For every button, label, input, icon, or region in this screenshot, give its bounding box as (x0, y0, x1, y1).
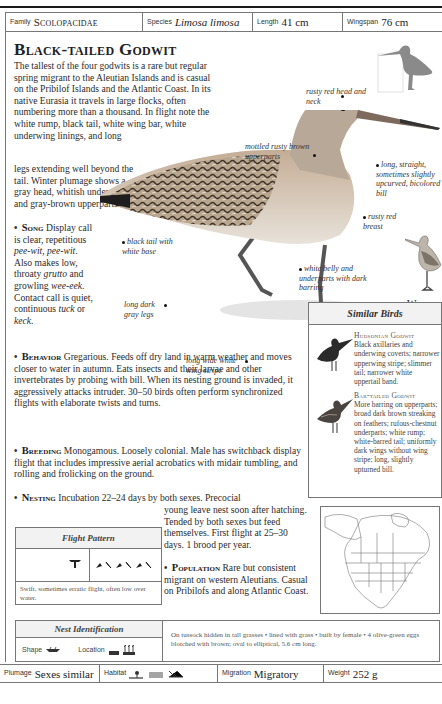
plumage-value: Sexes similar (35, 668, 94, 680)
family-value: Scolopacidae (34, 16, 98, 28)
nest-location-icon (109, 644, 137, 656)
similar-bird-description: More barring on upperparts; broad dark b… (354, 400, 440, 474)
callout-belly-text: white belly and underparts with dark bar… (299, 264, 367, 292)
callout-upperparts: mottled rusty brown upperparts (245, 142, 315, 161)
habitat-label: Habitat (104, 669, 126, 676)
flight-pattern-heading: Flight Pattern (16, 528, 161, 549)
family-label: Family (10, 18, 31, 25)
nest-identification-left: Nest Identification Shape Location (16, 621, 163, 661)
similar-bird-name: Hudsonian Godwit (354, 331, 440, 340)
plumage-label: Plumage (4, 669, 32, 676)
song-call: grutto (44, 268, 67, 279)
breeding-section: • Breeding Monogamous. Loosely colonial.… (14, 445, 304, 480)
weight-value: 252 g (353, 668, 378, 680)
nesting-text: Incubation 22–24 days by both sexes. Pre… (58, 492, 241, 503)
flight-pattern-icons (16, 549, 161, 582)
species-cell: Species Limosa limosa (143, 13, 253, 31)
callout-bill: long, straight, sometimes slightly upcur… (376, 160, 442, 198)
length-cell: Length 41 cm (253, 13, 343, 31)
footer-info-bar: Plumage Sexes similar Habitat Migration … (0, 664, 442, 683)
bullet-icon: • (14, 222, 17, 233)
species-label: Species (147, 18, 172, 25)
callout-wing: long wide white wing stripe (186, 356, 244, 375)
population-section: • Population Rare but consistent migrant… (164, 562, 309, 597)
species-title: Black-tailed Godwit (14, 40, 177, 60)
nest-shape-label: Shape (22, 646, 42, 653)
callout-dot-icon (299, 268, 302, 271)
nest-identification-heading: Nest Identification (16, 621, 162, 638)
callout-legs-text: long dark gray legs (124, 300, 155, 319)
weight-cell: Weight 252 g (324, 665, 442, 682)
breeding-heading: Breeding (22, 445, 62, 456)
similar-bird-description: Black axillaries and underwing coverts; … (354, 340, 440, 386)
callout-dot-icon (245, 360, 248, 363)
nest-location-label: Location (78, 646, 104, 653)
flying-bird-front-icon (69, 559, 81, 569)
flight-pattern-box: Flight Pattern Swift, sometimes erratic … (15, 527, 162, 605)
shore-habitat-icon (129, 671, 143, 678)
wingspan-cell: Wingspan 76 cm (343, 13, 442, 31)
wingspan-value: 76 cm (381, 16, 408, 28)
north-america-map-icon (321, 507, 439, 613)
song-call: wee-eek (51, 280, 82, 291)
behavior-heading: Behavior (22, 351, 62, 362)
similar-birds-heading: Similar Birds (309, 303, 441, 325)
callout-dot-icon (122, 241, 125, 244)
bullet-icon: • (14, 492, 17, 503)
bullet-icon: • (14, 351, 17, 362)
callout-breast-text: rusty red breast (363, 212, 396, 231)
nest-description: On tussock hidden in tall grasses • line… (163, 621, 439, 661)
length-label: Length (257, 18, 278, 25)
range-map (320, 506, 440, 614)
song-call: keck (14, 315, 31, 326)
flight-path-icon (96, 560, 156, 570)
species-value: Limosa limosa (175, 16, 240, 28)
callout-legs: long dark gray legs (124, 300, 166, 319)
water-habitat-icon (149, 673, 163, 677)
callout-wing-text: long wide white wing stripe (186, 356, 237, 375)
song-call: tuck (59, 303, 75, 314)
callout-head-text: rusty red head and neck (306, 87, 366, 106)
flight-pattern-cell (90, 549, 161, 581)
callout-bill-text: long, straight, sometimes slightly upcur… (376, 160, 440, 198)
bullet-icon: • (14, 445, 17, 456)
callout-dot-icon (164, 304, 167, 307)
song-text: or (75, 303, 85, 314)
family-cell: Family Scolopacidae (6, 13, 143, 31)
migration-label: Migration (222, 669, 251, 676)
header-info-bar: Family Scolopacidae Species Limosa limos… (5, 12, 442, 32)
size-silhouette-icon (375, 38, 440, 98)
nesting-heading: Nesting (22, 492, 56, 503)
callout-dot-icon (341, 95, 344, 98)
flight-silhouette-cell (16, 549, 90, 581)
callout-tail: black tail with white base (122, 237, 182, 256)
song-section: • Song Display call is clear, repetitiou… (14, 222, 96, 326)
bar-tailed-godwit-icon (315, 395, 353, 435)
similar-birds-box: Similar Birds Hudsonian Godwit Black axi… (308, 302, 442, 498)
hudsonian-godwit-icon (315, 333, 353, 373)
nesting-continuation: young leave nest soon after hatching. Te… (164, 504, 309, 550)
song-heading: Song (22, 222, 44, 233)
song-text: . (31, 315, 33, 326)
nesting-section: • Nesting Incubation 22–24 days by both … (14, 492, 309, 504)
callout-dot-icon (376, 164, 379, 167)
top-rule (0, 6, 442, 8)
length-value: 41 cm (281, 16, 308, 28)
similar-bird-name: Bar-tailed Godwit (354, 391, 440, 400)
similar-bird-item: Bar-tailed Godwit More barring on upperp… (354, 391, 440, 474)
callout-upperparts-text: mottled rusty brown upperparts (245, 142, 309, 161)
migration-value: Migratory (254, 668, 299, 680)
similar-bird-item: Hudsonian Godwit Black axillaries and un… (354, 331, 440, 386)
callout-dot-icon (313, 154, 316, 157)
bullet-icon: • (164, 562, 167, 573)
population-heading: Population (172, 562, 220, 573)
callout-head: rusty red head and neck (306, 87, 366, 106)
nest-shape-location-row: Shape Location (16, 638, 162, 661)
song-call: pee-wit, pee-wit (14, 245, 75, 256)
flight-pattern-description: Swift, sometimes erratic flight, often l… (16, 582, 161, 605)
callout-tail-text: black tail with white base (122, 237, 173, 256)
callout-dot-icon (363, 216, 366, 219)
nest-identification-box: Nest Identification Shape Location On tu… (15, 620, 440, 662)
marsh-habitat-icon (169, 671, 183, 677)
plumage-cell: Plumage Sexes similar (0, 665, 100, 682)
